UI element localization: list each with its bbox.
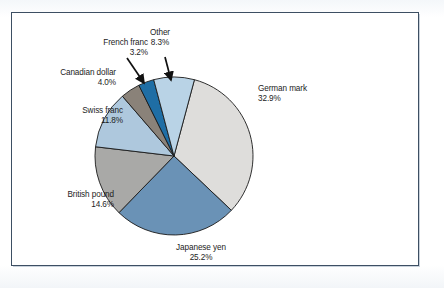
slice-label-name: British pound	[28, 190, 114, 200]
slice-label-japanese-yen: Japanese yen25.2%	[161, 243, 241, 264]
slice-label-name: Canadian dollar	[30, 68, 116, 78]
slice-label-name: Swiss franc	[37, 106, 123, 116]
slice-label-value: 3.2%	[62, 48, 148, 58]
figure-page: German mark32.9%Japanese yen25.2%British…	[0, 0, 444, 288]
slice-label-other: Other8.3%	[120, 28, 200, 49]
pie-chart: German mark32.9%Japanese yen25.2%British…	[0, 0, 444, 288]
slice-label-canadian-dollar: Canadian dollar4.0%	[30, 68, 116, 89]
pie-slices-group	[95, 77, 253, 235]
slice-label-name: German mark	[258, 84, 307, 94]
slice-label-value: 4.0%	[30, 78, 116, 88]
slice-label-value: 8.3%	[120, 38, 200, 48]
slice-label-value: 14.6%	[28, 200, 114, 210]
slice-label-german-mark: German mark32.9%	[258, 84, 307, 105]
arrow-to-french-franc	[127, 58, 144, 83]
arrow-to-other	[165, 57, 171, 80]
slice-label-value: 11.8%	[37, 116, 123, 126]
slice-label-value: 32.9%	[258, 94, 307, 104]
slice-label-value: 25.2%	[161, 253, 241, 263]
slice-label-name: Other	[120, 28, 200, 38]
slice-label-name: Japanese yen	[161, 243, 241, 253]
slice-label-swiss-franc: Swiss franc11.8%	[37, 106, 123, 127]
slice-label-british-pound: British pound14.6%	[28, 190, 114, 211]
